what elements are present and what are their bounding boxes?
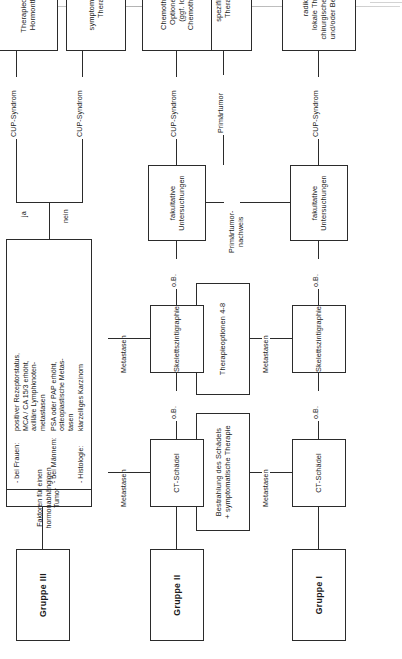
edge-primaertumor-a: [223, 135, 224, 165]
edge-label-ob-4: o.B.: [170, 272, 178, 289]
node-fakultative-untersuchungen-gruppe-ii: fakultative Untersuchungen: [148, 165, 206, 241]
panel-row-label: - Histologie:: [77, 437, 86, 483]
edge-panel-to-fork: [49, 203, 50, 239]
edge-fak1-primaertumor-v: [240, 202, 290, 203]
node-radikale-lokale-therapie: radikale lokale Therapie: chirurgische T…: [282, 0, 356, 51]
edge-ct2-ob-a: [176, 421, 177, 439]
edge-skelett2-ob-a: [176, 289, 177, 305]
edge-label-ja: ja: [20, 209, 28, 219]
panel-row-value: klarzelliges Karzinom: [77, 245, 86, 431]
node-bestrahlung-schaedel: Bestrahlung des Schädels + symptomatisch…: [196, 413, 250, 531]
edge-ja-run: [16, 139, 17, 203]
fork-spine: [16, 202, 82, 203]
node-therapieoption-8-hormontherapie: Therapieoption 8: Hormontherapie: [0, 0, 58, 51]
edge-ct-ob-b: [318, 373, 319, 391]
group-label-gruppe-ii: Gruppe II: [150, 549, 204, 641]
edge-label-primaertumor-nachweis: Primärtumor- nachweis: [228, 208, 245, 255]
edge-nein-run: [82, 139, 83, 203]
node-ct-schaedel-gruppe-i: CT-Schädel: [292, 439, 346, 507]
edge-skelett2-metastasen-v: [108, 338, 150, 339]
group-label-gruppe-i: Gruppe I: [292, 549, 346, 641]
panel-row-label: - bei Männern:: [50, 437, 59, 483]
panel-row-value: PSA oder PAP erhöht, osteoplastische Met…: [50, 245, 77, 431]
edge-ct1-metastasen-v: [250, 472, 292, 473]
edge-label-primaertumor: Primärtumor: [217, 91, 225, 135]
edge-label-cup-syndrom-4: CUP-Syndrom: [76, 88, 84, 139]
panel-row-label: - bei Frauen:: [13, 437, 22, 483]
edge-skelett-ob-b: [318, 241, 319, 259]
flowchart-page: Gruppe I CT-Schädel o.B. Skelettszintigr…: [0, 0, 402, 659]
edge-skelett1-metastasen-v: [250, 338, 292, 339]
panel-header: Faktoren für einen hormonabhängigen Tumo…: [7, 489, 91, 506]
edge-nein-to-symptom: [82, 51, 83, 77]
node-symptomatische-therapie: symptomatische Therapie: [66, 0, 126, 51]
node-fakultative-untersuchungen-gruppe-i: fakultative Untersuchungen: [290, 165, 348, 241]
edge-label-metastasen-4: Metastasen: [120, 333, 128, 375]
edge-g2-to-ct: [176, 507, 177, 549]
rotated-chart-canvas: Gruppe I CT-Schädel o.B. Skelettszintigr…: [0, 0, 402, 659]
node-skelettszintigraphie-gruppe-ii: Skelettszintigraphie: [150, 305, 204, 373]
edge-label-metastasen-1: Metastasen: [262, 467, 270, 509]
panel-body: - bei Frauen: positiver Rezeptorstatus, …: [7, 240, 91, 489]
edge-label-nein: nein: [62, 207, 70, 225]
panel-row: - bei Frauen: positiver Rezeptorstatus, …: [13, 245, 48, 483]
edge-ja-to-hormon: [16, 51, 17, 77]
edge-label-ob-2: o.B.: [312, 272, 320, 289]
edge-fak1-cup-a: [318, 139, 319, 165]
edge-fak2-cup-b: [176, 51, 177, 77]
panel-hormonabhaengiger-tumor: Faktoren für einen hormonabhängigen Tumo…: [6, 239, 92, 507]
node-chemotherapie: Chemotherapie: Optionen 1-8 (ggf. lokale…: [142, 0, 212, 51]
edge-primaertumor-b: [223, 51, 224, 75]
node-skelettszintigraphie-gruppe-i: Skelettszintigraphie: [292, 305, 346, 373]
panel-row: - bei Männern: PSA oder PAP erhöht, oste…: [50, 245, 77, 483]
edge-skelett2-ob-b: [176, 241, 177, 259]
edge-label-cup-syndrom-3: CUP-Syndrom: [10, 88, 18, 139]
edge-g1-to-ct: [318, 507, 319, 549]
edge-label-ob-1: o.B.: [312, 404, 320, 421]
edge-ct2-ob-b: [176, 373, 177, 391]
edge-label-metastasen-2: Metastasen: [262, 333, 270, 375]
edge-label-metastasen-3: Metastasen: [120, 467, 128, 509]
edge-fak2-cup-a: [176, 139, 177, 165]
panel-row-value: positiver Rezeptorstatus, MCA / CA 15/3 …: [13, 245, 48, 431]
edge-label-cup-syndrom-1: CUP-Syndrom: [312, 88, 320, 139]
panel-row: - Histologie: klarzelliges Karzinom: [77, 245, 86, 483]
group-label-gruppe-iii: Gruppe III: [16, 549, 70, 641]
edge-label-cup-syndrom-2: CUP-Syndrom: [170, 88, 178, 139]
edge-fak1-cup-b: [318, 51, 319, 77]
node-therapieoptionen-4-8: Therapieoptionen 4-8: [196, 283, 250, 395]
edge-ct-ob-a: [318, 421, 319, 439]
edge-label-ob-3: o.B.: [170, 404, 178, 421]
edge-ct2-metastasen-v: [108, 472, 150, 473]
edge-skelett-ob-a: [318, 289, 319, 305]
node-ct-schaedel-gruppe-ii: CT-Schädel: [150, 439, 204, 507]
